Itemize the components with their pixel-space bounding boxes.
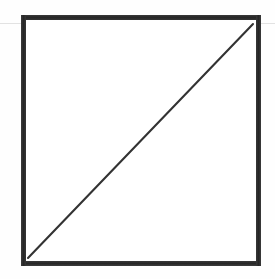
square-border-left — [21, 15, 26, 266]
figure-canvas — [0, 0, 275, 279]
square-interior — [26, 20, 256, 261]
square-border-bottom — [21, 261, 261, 266]
square-border-right — [256, 15, 261, 266]
square-border-top — [21, 15, 261, 20]
